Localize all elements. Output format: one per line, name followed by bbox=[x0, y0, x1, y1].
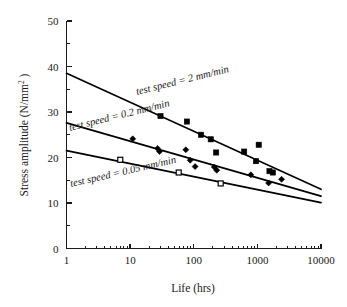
data-point bbox=[270, 170, 275, 175]
data-point bbox=[158, 113, 163, 118]
x-tick-label: 1000 bbox=[246, 254, 269, 266]
data-point bbox=[118, 157, 123, 162]
data-point bbox=[279, 176, 285, 182]
data-point bbox=[214, 150, 219, 155]
y-tick-label: 20 bbox=[48, 152, 60, 164]
y-axis-ticks bbox=[67, 21, 72, 249]
axis-frame bbox=[66, 21, 321, 249]
x-tick-label: 10 bbox=[125, 254, 137, 266]
y-axis-title: Stress amplitude (N/mm2 ) bbox=[17, 73, 31, 196]
data-point-markers bbox=[118, 113, 285, 185]
data-point bbox=[192, 164, 198, 170]
data-point bbox=[198, 132, 203, 137]
data-point bbox=[176, 170, 181, 175]
y-tick-label: 0 bbox=[53, 243, 59, 255]
data-point bbox=[184, 119, 189, 124]
series-annotation-0p2mm: test speed = 0.2 mm/min bbox=[68, 97, 171, 133]
data-point bbox=[253, 159, 258, 164]
y-tick-label: 30 bbox=[48, 106, 60, 118]
x-axis-tick-labels: 110100100010000 bbox=[64, 254, 336, 266]
x-tick-label: 100 bbox=[186, 254, 203, 266]
data-point bbox=[218, 181, 223, 186]
series-annotation-2mm: test speed = 2 mm/min bbox=[135, 63, 230, 97]
chart-canvas: 01020304050 110100100010000 test speed =… bbox=[0, 0, 347, 307]
y-tick-label: 50 bbox=[48, 15, 60, 27]
data-point bbox=[183, 147, 189, 153]
data-point bbox=[256, 142, 261, 147]
x-axis-ticks bbox=[67, 244, 322, 249]
trend-lines bbox=[67, 73, 322, 202]
x-tick-label: 1 bbox=[64, 254, 70, 266]
chart-figure: 01020304050 110100100010000 test speed =… bbox=[0, 0, 347, 307]
y-tick-label: 10 bbox=[48, 197, 60, 209]
x-axis-title: Life (hrs) bbox=[171, 282, 215, 295]
trend-line-1 bbox=[67, 123, 322, 196]
y-axis-tick-labels: 01020304050 bbox=[48, 15, 60, 255]
data-point bbox=[208, 137, 213, 142]
data-point bbox=[242, 149, 247, 154]
y-tick-label: 40 bbox=[48, 61, 60, 73]
x-tick-label: 10000 bbox=[307, 254, 335, 266]
